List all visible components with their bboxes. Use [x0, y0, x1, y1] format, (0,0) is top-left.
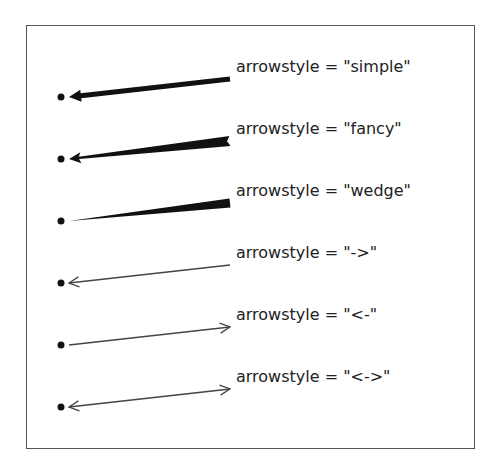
anchor-dot: [58, 404, 65, 411]
arrowstyle-label: arrowstyle = "->": [236, 243, 377, 262]
anchor-dot: [58, 218, 65, 225]
fancy-arrow: [69, 136, 231, 163]
arrow-line: [69, 389, 230, 407]
arrow-line: [69, 265, 230, 283]
arrow-line: [69, 327, 230, 345]
anchor-dot: [58, 94, 65, 101]
arrowstyle-label: arrowstyle = "<-": [236, 305, 377, 324]
arrowstyle-label: arrowstyle = "simple": [236, 57, 411, 76]
arrowstyle-label: arrowstyle = "fancy": [236, 119, 402, 138]
wedge-arrow: [69, 199, 230, 221]
anchor-dot: [58, 280, 65, 287]
arrowstyle-label: arrowstyle = "wedge": [236, 181, 411, 200]
anchor-dot: [58, 342, 65, 349]
anchor-dot: [58, 156, 65, 163]
arrow-diagram: arrowstyle = "simple"arrowstyle = "fancy…: [0, 0, 495, 471]
arrowstyle-label: arrowstyle = "<->": [236, 367, 390, 386]
simple-arrow: [69, 77, 230, 102]
